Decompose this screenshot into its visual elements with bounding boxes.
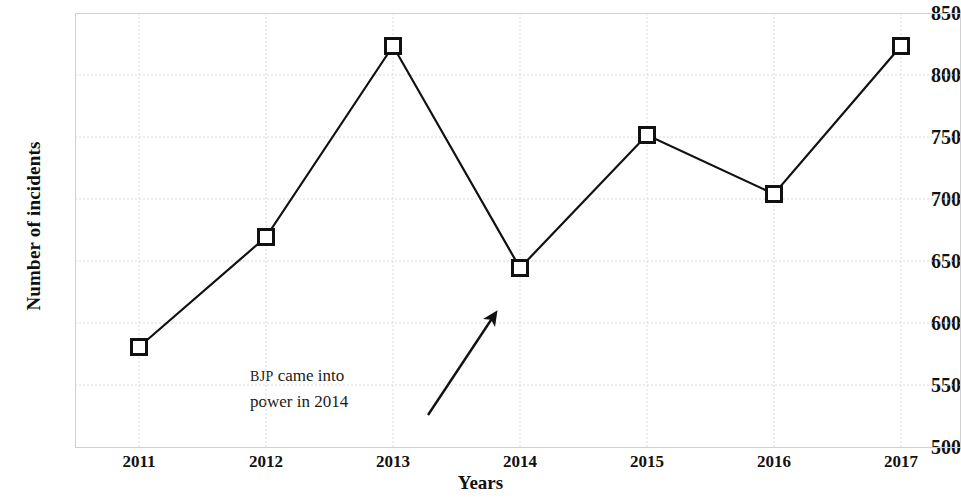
vertical-gridlines: [139, 13, 901, 447]
data-point-2016: [767, 187, 782, 202]
data-point-2015: [640, 128, 655, 143]
plot-area: [0, 0, 961, 501]
horizontal-gridlines: [75, 75, 960, 385]
data-point-2011: [132, 340, 147, 355]
data-point-2017: [894, 39, 909, 54]
line-chart: Number of incidents 850 800 750 700 650 …: [0, 0, 961, 501]
data-point-2012: [259, 230, 274, 245]
plot-frame: [76, 14, 961, 448]
data-point-2013: [386, 39, 401, 54]
annotation-arrow: [428, 317, 493, 415]
data-point-2014: [513, 261, 528, 276]
